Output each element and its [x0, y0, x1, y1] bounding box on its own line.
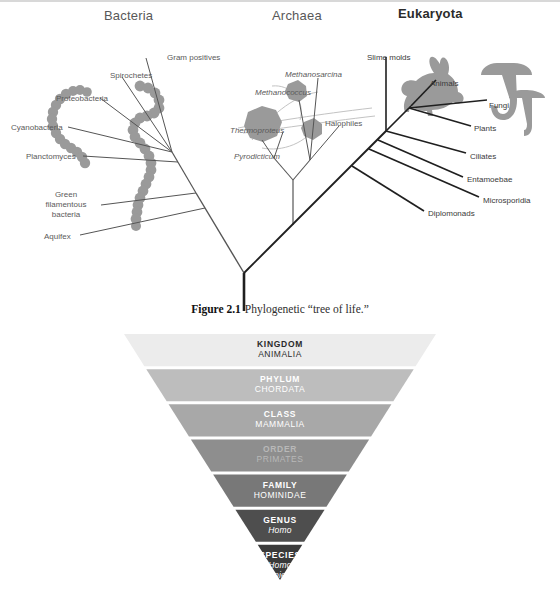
figure-caption-text: Phylogenetic “tree of life.” — [245, 303, 369, 315]
tree-label-aquifex: Aquifex — [44, 232, 71, 242]
tree-label-green-filamentous-bacteria: Green filamentous bacteria — [34, 190, 98, 220]
pyramid-band-species — [258, 545, 303, 580]
tree-label-methanosarcina: Methanosarcina — [285, 70, 342, 80]
tree-label-pyrodicticum: Pyrodicticum — [234, 152, 280, 162]
pyramid-band-family — [213, 475, 347, 507]
pyramid-band-genus — [235, 510, 324, 542]
tree-label-microsporidia: Microsporidia — [483, 196, 531, 206]
tree-label-animals: Animals — [430, 79, 458, 89]
tree-label-methanococcus: Methanococcus — [255, 88, 311, 98]
tree-label-fungi: Fungi — [489, 101, 509, 111]
domain-header-bacteria: Bacteria — [104, 8, 153, 23]
tree-label-gram-positives: Gram positives — [167, 53, 220, 63]
figure-caption: Figure 2.1Phylogenetic “tree of life.” — [0, 303, 560, 315]
domain-header-archaea: Archaea — [272, 8, 322, 23]
figure-caption-number: Figure 2.1 — [191, 303, 241, 315]
tree-label-spirochetes: Spirochetes — [110, 71, 152, 81]
tree-label-cyanobacteria: Cyanobacteria — [11, 123, 63, 133]
tree-label-ciliates: Ciliates — [470, 152, 496, 162]
pyramid-band-kingdom — [124, 334, 436, 366]
pyramid-band-class — [169, 404, 392, 436]
domain-header-eukaryota: Eukaryota — [398, 6, 463, 21]
taxonomic-rank-pyramid: KINGDOMANIMALIAPHYLUMCHORDATACLASSMAMMAL… — [0, 332, 560, 591]
pyramid-band-order — [191, 439, 369, 471]
tree-label-diplomonads: Diplomonads — [428, 209, 475, 219]
tree-label-entamoebae: Entamoebae — [467, 175, 512, 185]
tree-label-thermoproteus: Thermoproteus — [230, 126, 284, 136]
tree-label-plants: Plants — [474, 124, 496, 134]
tree-label-halophiles: Halophiles — [325, 119, 362, 129]
pyramid-band-phylum — [146, 369, 413, 401]
tree-label-proteobacteria: Proteobacteria — [56, 94, 108, 104]
pyramid-bands — [0, 332, 560, 591]
tree-label-slime-molds: Slime molds — [367, 53, 411, 63]
tree-label-planctomyces: Planctomyces — [26, 152, 76, 162]
